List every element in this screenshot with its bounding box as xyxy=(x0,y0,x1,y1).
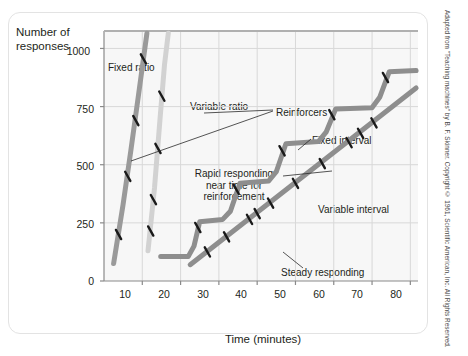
annotation-fixed-interval: Fixed interval xyxy=(312,135,371,147)
annotation-reinforcers: Reinforcers xyxy=(276,107,327,119)
x-tick-label-10: 10 xyxy=(110,288,140,300)
x-tick-label-50: 50 xyxy=(265,288,295,300)
x-tick-label-60: 60 xyxy=(304,288,334,300)
y-tick-label-750: 750 xyxy=(58,103,94,115)
y-tick-label-0: 0 xyxy=(58,275,94,287)
x-tick-label-30: 30 xyxy=(188,288,218,300)
x-tick-label-20: 20 xyxy=(149,288,179,300)
x-tick-label-80: 80 xyxy=(381,288,411,300)
x-tick-label-40: 40 xyxy=(226,288,256,300)
x-tick-label-70: 70 xyxy=(342,288,372,300)
annotation-steady-responding: Steady responding xyxy=(281,267,364,279)
annotation-rapid-responding: Rapid responding near time for reinforce… xyxy=(186,168,282,203)
annotation-variable-interval: Variable interval xyxy=(318,204,389,216)
figure-credit: Adapted from "Teaching machines" by B. F… xyxy=(437,10,451,346)
annotation-variable-ratio: Variable ratio xyxy=(190,101,248,113)
y-tick-label-1000: 1000 xyxy=(54,45,90,57)
y-tick-label-250: 250 xyxy=(58,218,94,230)
annotation-fixed-ratio: Fixed ratio xyxy=(108,62,155,74)
x-axis-title: Time (minutes) xyxy=(104,333,422,345)
y-tick-label-500: 500 xyxy=(58,160,94,172)
